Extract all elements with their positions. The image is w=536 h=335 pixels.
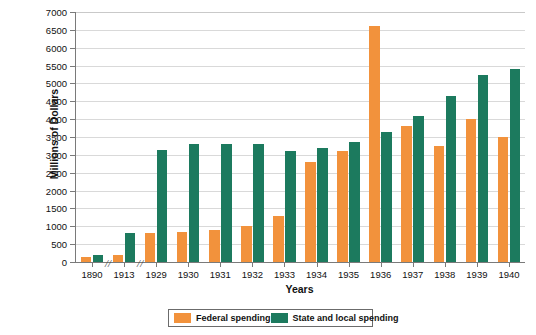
- x-tick-label: 1936: [370, 269, 391, 280]
- x-tick-label: 1930: [178, 269, 199, 280]
- legend-item-federal: Federal spending: [174, 313, 271, 323]
- x-tick-label: 1933: [274, 269, 295, 280]
- x-tick-mark: [252, 262, 253, 267]
- x-tick-mark: [156, 262, 157, 267]
- bar-chart: Millions of Dollars 05001000150020002500…: [0, 0, 536, 335]
- bar-group: [76, 12, 108, 262]
- bar-group: [397, 12, 429, 262]
- y-tick-label: 6500: [27, 24, 67, 35]
- x-tick-mark: [413, 262, 414, 267]
- y-tick-label: 5000: [27, 78, 67, 89]
- y-tick-label: 6000: [27, 42, 67, 53]
- x-tick-label: 1937: [402, 269, 423, 280]
- bar-federal: [145, 233, 156, 262]
- x-tick-mark: [381, 262, 382, 267]
- y-tick-label: 3000: [27, 149, 67, 160]
- bar-federal: [305, 162, 316, 262]
- bar-state-local: [253, 144, 264, 262]
- legend-swatch-federal: [174, 313, 191, 323]
- y-tick-label: 5500: [27, 60, 67, 71]
- x-tick-label: 1938: [434, 269, 455, 280]
- chart-legend: Federal spending State and local spendin…: [168, 309, 373, 327]
- bar-state-local: [189, 144, 200, 262]
- bar-group: [108, 12, 140, 262]
- y-tick-label: 1500: [27, 203, 67, 214]
- axis-break-marker: //: [105, 258, 111, 269]
- x-tick-mark: [92, 262, 93, 267]
- bar-group: [172, 12, 204, 262]
- bar-federal: [434, 146, 445, 262]
- y-tick-label: 2000: [27, 185, 67, 196]
- bar-group: [365, 12, 397, 262]
- x-tick-mark: [317, 262, 318, 267]
- legend-swatch-state-local: [271, 313, 288, 323]
- bar-group: [204, 12, 236, 262]
- x-axis-title: Years: [75, 283, 524, 295]
- axis-break-marker: //: [137, 258, 143, 269]
- bar-federal: [369, 26, 380, 262]
- bar-group: [301, 12, 333, 262]
- bar-state-local: [510, 69, 521, 262]
- bar-state-local: [413, 116, 424, 262]
- legend-item-state-local: State and local spending: [271, 313, 399, 323]
- legend-label-federal: Federal spending: [196, 313, 271, 323]
- bar-federal: [498, 137, 509, 262]
- x-tick-label: 1913: [114, 269, 135, 280]
- x-tick-mark: [188, 262, 189, 267]
- legend-label-state-local: State and local spending: [293, 313, 399, 323]
- x-tick-mark: [445, 262, 446, 267]
- x-tick-mark: [284, 262, 285, 267]
- y-tick-label: 0: [27, 257, 67, 268]
- bar-federal: [177, 232, 188, 262]
- bar-group: [268, 12, 300, 262]
- x-tick-label: 1939: [466, 269, 487, 280]
- x-tick-label: 1940: [498, 269, 519, 280]
- bar-state-local: [381, 132, 392, 262]
- x-tick-mark: [124, 262, 125, 267]
- x-tick-label: 1931: [210, 269, 231, 280]
- y-tick-label: 500: [27, 239, 67, 250]
- y-tick-label: 4000: [27, 114, 67, 125]
- x-tick-mark: [349, 262, 350, 267]
- x-tick-mark: [220, 262, 221, 267]
- bar-state-local: [317, 148, 328, 262]
- x-tick-label: 1935: [338, 269, 359, 280]
- bar-federal: [209, 230, 220, 262]
- bar-state-local: [93, 255, 104, 262]
- bar-federal: [81, 257, 92, 262]
- bar-state-local: [221, 144, 232, 262]
- bar-group: [140, 12, 172, 262]
- bar-group: [493, 12, 525, 262]
- bar-state-local: [478, 75, 489, 263]
- bar-federal: [401, 126, 412, 262]
- x-tick-label: 1929: [146, 269, 167, 280]
- y-tick-label: 4500: [27, 96, 67, 107]
- bar-group: [236, 12, 268, 262]
- bar-state-local: [285, 151, 296, 262]
- bar-federal: [113, 255, 124, 262]
- bar-federal: [466, 119, 477, 262]
- bar-group: [429, 12, 461, 262]
- bar-state-local: [125, 233, 136, 262]
- y-tick-label: 3500: [27, 132, 67, 143]
- bar-state-local: [446, 96, 457, 262]
- bar-group: [461, 12, 493, 262]
- y-tick-label: 1000: [27, 221, 67, 232]
- x-tick-mark: [477, 262, 478, 267]
- y-tick-mark: [70, 262, 76, 263]
- x-tick-label: 1890: [81, 269, 102, 280]
- bar-federal: [337, 151, 348, 262]
- bar-state-local: [349, 142, 360, 262]
- x-tick-label: 1932: [242, 269, 263, 280]
- bars-layer: [76, 12, 525, 262]
- y-tick-label: 7000: [27, 7, 67, 18]
- bar-federal: [273, 216, 284, 262]
- x-tick-label: 1934: [306, 269, 327, 280]
- bar-state-local: [157, 150, 168, 263]
- plot-area: 0500100015002000250030003500400045005000…: [75, 12, 525, 263]
- bar-federal: [241, 226, 252, 262]
- bar-group: [333, 12, 365, 262]
- x-tick-mark: [509, 262, 510, 267]
- y-tick-label: 2500: [27, 167, 67, 178]
